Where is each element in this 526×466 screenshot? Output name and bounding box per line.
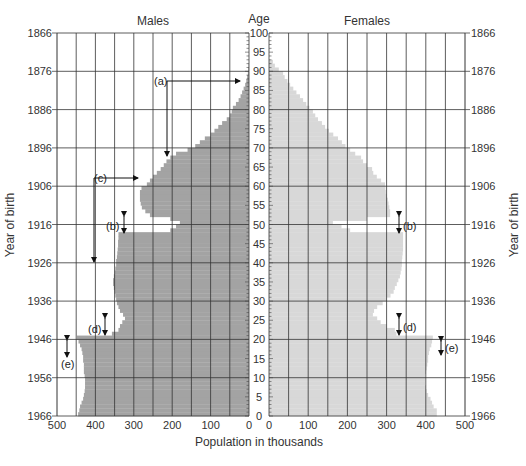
male-bar <box>84 366 249 370</box>
annotation-d-left: (d) <box>88 323 101 335</box>
female-bar <box>269 332 396 336</box>
male-bar <box>84 362 249 366</box>
age-tick-label: 5 <box>256 391 262 403</box>
male-bar <box>118 244 249 248</box>
male-bar <box>166 159 249 163</box>
female-bar <box>269 236 403 240</box>
female-bar <box>269 293 391 297</box>
birth-year-label-left: 1956 <box>28 372 52 384</box>
birth-year-label-right: 1956 <box>471 372 495 384</box>
male-bar <box>170 217 249 221</box>
male-bar <box>85 389 249 393</box>
male-bar <box>141 202 249 206</box>
birth-year-label-right: 1866 <box>471 27 495 39</box>
female-bar <box>269 83 290 87</box>
female-bar <box>269 247 403 251</box>
male-bars <box>77 64 249 417</box>
birth-year-label-left: 1896 <box>28 142 52 154</box>
annotation-e-left: (e) <box>61 358 74 370</box>
annotation-d-right: (d) <box>403 321 416 333</box>
male-bar <box>150 179 249 183</box>
age-tick-label: 15 <box>253 353 265 365</box>
age-tick-label: 75 <box>253 123 265 135</box>
male-bar <box>140 190 249 194</box>
annotation-b-left: (b) <box>106 220 119 232</box>
male-bar <box>115 270 249 274</box>
female-bar <box>269 313 373 317</box>
female-bar <box>269 240 403 244</box>
male-bar <box>116 263 249 267</box>
female-bar <box>269 347 430 351</box>
age-tick-label: 90 <box>253 65 265 77</box>
birth-year-label-right: 1946 <box>471 333 495 345</box>
female-bar <box>269 393 428 397</box>
population-pyramid-chart: 0510152025303540455055606570758085909510… <box>0 0 526 466</box>
female-bar <box>269 232 403 236</box>
birth-year-label-left: 1886 <box>28 104 52 116</box>
birth-year-label-left: 1876 <box>28 65 52 77</box>
age-tick-label: 60 <box>253 180 265 192</box>
birth-year-label-right: 1896 <box>471 142 495 154</box>
female-bar <box>269 225 342 229</box>
birth-year-label-left: 1946 <box>28 333 52 345</box>
female-bar <box>269 117 318 121</box>
birth-year-label-left: 1866 <box>28 27 52 39</box>
female-bar <box>269 305 377 309</box>
birth-year-label-left: 1926 <box>28 257 52 269</box>
age-tick-label: 85 <box>253 84 265 96</box>
female-bar <box>269 79 287 83</box>
male-bar <box>145 209 249 213</box>
birth-year-label-left: 1916 <box>28 219 52 231</box>
female-bars <box>269 60 437 416</box>
age-tick-label: 40 <box>253 257 265 269</box>
male-bar <box>205 136 249 140</box>
male-bar <box>230 113 249 117</box>
male-bar <box>84 370 249 374</box>
male-bar <box>115 267 249 271</box>
age-tick-label: 70 <box>253 142 265 154</box>
female-bar <box>269 186 385 190</box>
female-bar <box>269 75 285 79</box>
female-bar <box>269 175 377 179</box>
male-bar <box>85 382 249 386</box>
female-bar <box>269 401 432 405</box>
x-tick-label-females: 0 <box>266 419 272 431</box>
male-bar <box>83 359 249 363</box>
male-bar <box>153 175 249 179</box>
male-bar <box>140 194 249 198</box>
female-bar <box>269 355 428 359</box>
female-bar <box>269 339 432 343</box>
female-bar <box>269 64 275 68</box>
female-bar <box>269 179 381 183</box>
age-tick-label: 35 <box>253 276 265 288</box>
annotation-b-right: (b) <box>403 220 416 232</box>
age-axis-title: Age <box>248 12 270 26</box>
female-bar <box>269 129 329 133</box>
female-bar <box>269 133 333 137</box>
age-tick-label: 55 <box>253 199 265 211</box>
female-bar <box>269 110 313 114</box>
age-tick-label: 95 <box>253 46 265 58</box>
x-tick-label-females: 500 <box>456 419 474 431</box>
male-bar <box>79 339 249 343</box>
male-bar <box>112 332 249 336</box>
age-tick-label: 0 <box>256 410 262 422</box>
male-bar <box>244 87 249 91</box>
male-bar <box>242 90 249 94</box>
male-bar <box>170 156 249 160</box>
male-bar <box>222 121 249 125</box>
male-bar <box>85 378 249 382</box>
female-bar <box>269 301 383 305</box>
female-bar <box>269 320 381 324</box>
female-bar <box>269 148 350 152</box>
female-bar <box>269 343 431 347</box>
female-bar <box>269 205 389 209</box>
female-bar <box>269 121 322 125</box>
male-bar <box>82 351 249 355</box>
male-bar <box>241 94 249 98</box>
male-bar <box>150 213 249 217</box>
male-bar <box>80 405 249 409</box>
female-bar <box>269 209 390 213</box>
age-tick-label: 50 <box>253 219 265 231</box>
female-bar <box>269 213 390 217</box>
